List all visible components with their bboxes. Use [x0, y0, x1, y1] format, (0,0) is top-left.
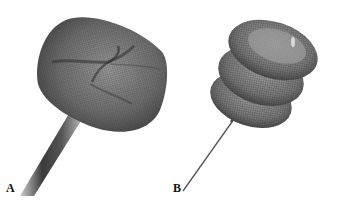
umbrella-mesh-illustration [0, 0, 169, 212]
panel-label-b: B [173, 181, 181, 196]
guide-wire [183, 112, 239, 191]
figure-panel-a: A [0, 0, 169, 212]
panel-label-a: A [6, 181, 15, 196]
shaft [20, 112, 84, 196]
figure-panel-b: B [169, 0, 338, 212]
stacked-disc-mesh-illustration [169, 0, 338, 212]
